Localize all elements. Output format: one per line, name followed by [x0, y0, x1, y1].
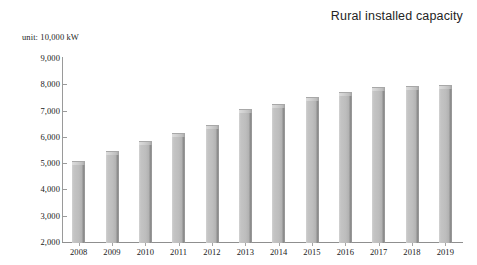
bar-top-cap [72, 162, 85, 165]
bar-top-cap [339, 93, 352, 96]
bar-2016 [339, 92, 352, 243]
x-axis-tick-mark [445, 243, 446, 246]
y-axis-tick-label: 2,000 [0, 237, 60, 247]
x-axis-tick-mark [412, 243, 413, 246]
bar-2018 [406, 86, 419, 243]
bar-top-cap [406, 87, 419, 90]
x-axis-tick-mark [145, 243, 146, 246]
chart-unit-label: unit: 10,000 kW [22, 32, 79, 42]
x-axis-tick-mark [79, 243, 80, 246]
bar-top-cap [106, 152, 119, 155]
x-axis-tick-mark [345, 243, 346, 246]
y-axis-tick-label: 4,000 [0, 184, 60, 194]
bar-top-cap [239, 110, 252, 113]
y-axis-tick-label: 6,000 [0, 132, 60, 142]
y-axis-tick-label: 9,000 [0, 53, 60, 63]
x-axis-tick-mark [212, 243, 213, 246]
bar-2010 [139, 141, 152, 243]
bar-2017 [372, 87, 385, 243]
x-axis-line [62, 242, 463, 243]
y-axis-tick-label: 7,000 [0, 106, 60, 116]
y-axis-tick-label: 3,000 [0, 211, 60, 221]
bar-top-cap [372, 88, 385, 91]
bar-2011 [172, 133, 185, 243]
bar-top-cap [306, 98, 319, 101]
x-axis-tick-mark [112, 243, 113, 246]
x-axis-tick-mark [245, 243, 246, 246]
bar-2009 [106, 151, 119, 243]
x-axis-tick-mark [179, 243, 180, 246]
bar-2019 [439, 85, 452, 243]
x-axis-label-2019: 2019 [425, 247, 465, 257]
plot-area [62, 58, 462, 242]
bar-top-cap [272, 105, 285, 108]
bar-2015 [306, 97, 319, 243]
y-axis-tick-label: 5,000 [0, 158, 60, 168]
bar-top-cap [139, 142, 152, 145]
bar-chart-figure: Rural installed capacity unit: 10,000 kW… [0, 0, 477, 265]
x-axis-tick-mark [279, 243, 280, 246]
y-axis-tick-label: 8,000 [0, 79, 60, 89]
x-axis-tick-mark [312, 243, 313, 246]
bar-2012 [206, 125, 219, 243]
bar-2013 [239, 109, 252, 243]
bar-2008 [72, 161, 85, 243]
bar-top-cap [439, 86, 452, 89]
bar-2014 [272, 104, 285, 243]
x-axis-tick-mark [379, 243, 380, 246]
chart-title: Rural installed capacity [331, 9, 463, 23]
bar-top-cap [172, 134, 185, 137]
bar-top-cap [206, 126, 219, 129]
